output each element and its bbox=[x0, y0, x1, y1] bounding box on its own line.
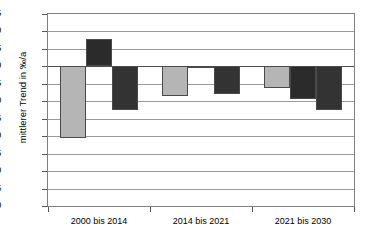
plot-area bbox=[47, 13, 355, 207]
y-axis-tick-label: -3.5 bbox=[0, 184, 1, 193]
bar bbox=[86, 39, 112, 66]
gridline bbox=[48, 31, 354, 32]
y-axis-tick-label: -3.0 bbox=[0, 166, 1, 175]
bar bbox=[264, 66, 290, 88]
bar bbox=[188, 66, 214, 68]
gridline bbox=[48, 154, 354, 155]
bar bbox=[214, 66, 240, 94]
bar bbox=[290, 66, 316, 99]
gridline bbox=[48, 136, 354, 137]
bar bbox=[112, 66, 138, 110]
y-axis-tick-label: -2.5 bbox=[0, 149, 1, 158]
gridline bbox=[48, 189, 354, 190]
gridline bbox=[48, 171, 354, 172]
x-axis-tick-mark bbox=[354, 207, 355, 212]
gridline bbox=[48, 101, 354, 102]
x-axis-tick-mark bbox=[150, 207, 151, 212]
y-axis-title: mittlerer Trend in ‰/a bbox=[17, 13, 28, 183]
x-axis-category-label: 2014 bis 2021 bbox=[151, 216, 251, 226]
x-axis-category-label: 2021 bis 2030 bbox=[253, 216, 353, 226]
y-axis-tick-label: -0.5 bbox=[0, 79, 1, 88]
bar bbox=[316, 66, 342, 110]
y-axis-tick-label: 0.0 bbox=[0, 61, 1, 70]
y-axis-tick-label: -1.5 bbox=[0, 114, 1, 123]
y-axis-tick-label: 0.5 bbox=[0, 44, 1, 53]
y-axis-tick-label: -4.0 bbox=[0, 201, 1, 210]
x-axis-category-label: 2000 bis 2014 bbox=[49, 216, 149, 226]
bar-chart: mittlerer Trend in ‰/a 1.51.00.50.0-0.5-… bbox=[0, 0, 366, 249]
bar bbox=[60, 66, 86, 138]
y-axis-tick-label: 1.0 bbox=[0, 26, 1, 35]
x-axis-tick-mark bbox=[48, 207, 49, 212]
bar bbox=[162, 66, 188, 96]
x-axis-tick-mark bbox=[252, 207, 253, 212]
y-axis-tick-label: -1.0 bbox=[0, 96, 1, 105]
y-axis-tick-label: -2.0 bbox=[0, 131, 1, 140]
gridline bbox=[48, 119, 354, 120]
y-axis-tick-label: 1.5 bbox=[0, 9, 1, 18]
